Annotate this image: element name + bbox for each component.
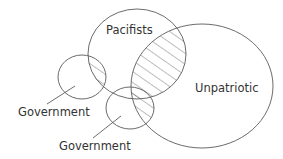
government-left-leader-line: [47, 86, 75, 104]
government-left-label: Government: [18, 107, 90, 119]
euler-diagram: Pacifists Unpatriotic Government Governm…: [0, 0, 283, 159]
government-bottom-label: Government: [59, 141, 131, 153]
pacifists-label: Pacifists: [106, 25, 153, 37]
unpatriotic-label: Unpatriotic: [195, 83, 259, 95]
government-bottom-leader-line: [93, 116, 121, 138]
